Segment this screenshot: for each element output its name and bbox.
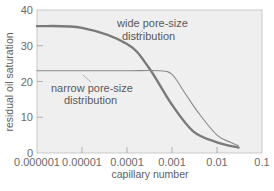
- x-tick-label: 0.000001: [14, 156, 60, 168]
- y-axis-title: residual oil saturation: [3, 32, 15, 131]
- residual-oil-saturation-chart: 010203040 0.0000010.000010.00010.0010.01…: [0, 0, 274, 191]
- x-tick-label: 0.1: [254, 156, 269, 168]
- x-tick-label: 0.001: [158, 156, 186, 168]
- y-tick-label: 10: [21, 111, 33, 123]
- narrow-annotation-line1: narrow pore-size: [51, 82, 133, 94]
- wide-annotation-line1: wide pore-size: [116, 17, 188, 29]
- x-tick-label: 0.00001: [62, 156, 102, 168]
- y-tick-label: 20: [21, 76, 33, 88]
- wide-annotation-line2: distribution: [122, 30, 175, 42]
- x-axis-title: capillary number: [111, 168, 189, 180]
- y-tick-label: 40: [21, 4, 33, 16]
- cropped-caption: [8, 182, 268, 188]
- x-tick-label: 0.0001: [110, 156, 144, 168]
- narrow-annotation-line2: distribution: [64, 94, 117, 106]
- x-tick-label: 0.01: [206, 156, 227, 168]
- y-tick-label: 30: [21, 40, 33, 52]
